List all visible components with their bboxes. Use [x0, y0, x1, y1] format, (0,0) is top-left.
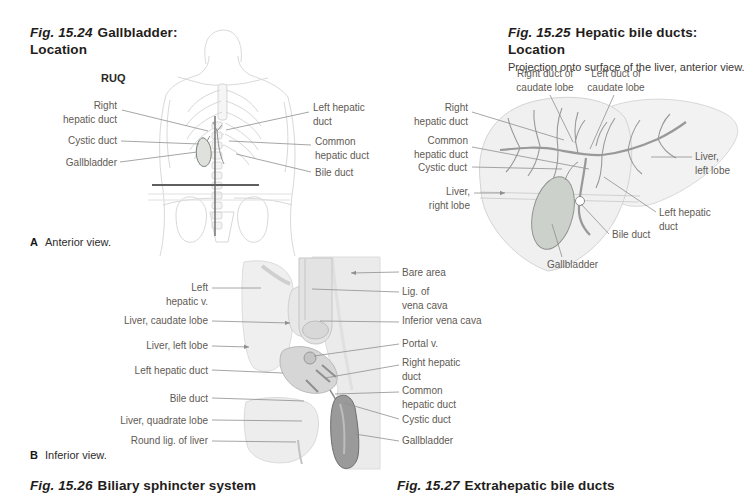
view-text-b: Inferior view.	[45, 449, 107, 461]
duct-junction-marker	[576, 197, 585, 206]
label-a-bile-duct: Bile duct	[315, 166, 395, 180]
label-25-liver-right-lobe: Liver, right lobe	[390, 185, 470, 212]
label-b-liver-quadrate-lobe: Liver, quadrate lobe	[98, 414, 208, 428]
label-b-left-hepatic-duct: Left hepatic duct	[98, 364, 208, 378]
view-caption-b: BInferior view.	[30, 449, 107, 461]
atlas-page: Fig. 15.24Gallbladder: Location Fig. 15.…	[0, 0, 747, 498]
view-caption-a: AAnterior view.	[30, 236, 111, 248]
label-25-right-duct-caudate: Right duct of caudate lobe	[510, 67, 580, 94]
liver-inferior-illustration	[240, 256, 382, 470]
fig-15-24-number: Fig. 15.24	[30, 25, 93, 40]
label-b-inferior-vena-cava: Inferior vena cava	[402, 314, 512, 328]
view-letter-b: B	[30, 449, 38, 461]
label-25-bile-duct: Bile duct	[612, 228, 672, 242]
quadrant-label-ruq: RUQ	[101, 72, 125, 84]
label-a-common-hepatic-duct: Common hepatic duct	[315, 135, 395, 162]
label-25-left-duct-caudate: Left duct of caudate lobe	[584, 67, 648, 94]
fig-15-25-caption-line: Fig. 15.25Hepatic bile ducts: Location	[508, 24, 747, 58]
fig-15-27-caption: Fig. 15.27Extrahepatic bile ducts	[397, 477, 615, 494]
fig-15-26-number: Fig. 15.26	[30, 478, 93, 493]
label-a-cystic-duct: Cystic duct	[27, 134, 117, 148]
label-b-lig-of-vena-cava: Lig. of vena cava	[402, 285, 502, 312]
fig-15-27-number: Fig. 15.27	[397, 478, 460, 493]
fig-15-26-title: Biliary sphincter system	[98, 478, 256, 493]
label-b-liver-caudate-lobe: Liver, caudate lobe	[98, 314, 208, 328]
fig-15-25-number: Fig. 15.25	[508, 25, 571, 40]
label-b-right-hepatic-duct: Right hepatic duct	[402, 356, 502, 383]
quadrate-lobe-shape	[244, 398, 318, 463]
label-b-bile-duct: Bile duct	[98, 392, 208, 406]
view-letter-a: A	[30, 236, 38, 248]
label-a-right-hepatic-duct: Right hepatic duct	[27, 99, 117, 126]
label-b-bare-area: Bare area	[402, 266, 502, 280]
label-b-round-lig-of-liver: Round lig. of liver	[98, 434, 208, 448]
label-25-common-hepatic-duct: Common hepatic duct	[388, 134, 468, 161]
label-25-right-hepatic-duct: Right hepatic duct	[388, 101, 468, 128]
label-b-portal-v: Portal v.	[402, 337, 502, 351]
label-a-gallbladder: Gallbladder	[27, 156, 117, 170]
label-25-liver-left-lobe: Liver, left lobe	[695, 150, 745, 177]
fig-15-26-caption: Fig. 15.26Biliary sphincter system	[30, 477, 256, 494]
portal-vein-shape	[304, 352, 316, 364]
label-25-cystic-duct: Cystic duct	[387, 161, 467, 175]
label-b-left-hepatic-v: Left hepatic v.	[98, 281, 208, 308]
label-a-left-hepatic-duct: Left hepatic duct	[313, 101, 393, 128]
label-b-cystic-duct: Cystic duct	[402, 413, 502, 427]
label-b-gallbladder: Gallbladder	[402, 434, 502, 448]
view-text-a: Anterior view.	[45, 236, 111, 248]
label-b-liver-left-lobe: Liver, left lobe	[98, 339, 208, 353]
label-25-gallbladder: Gallbladder	[547, 258, 617, 272]
label-b-common-hepatic-duct: Common hepatic duct	[402, 384, 502, 411]
gallbladder-drawing-a	[196, 138, 211, 167]
fig-15-27-title: Extrahepatic bile ducts	[465, 478, 615, 493]
